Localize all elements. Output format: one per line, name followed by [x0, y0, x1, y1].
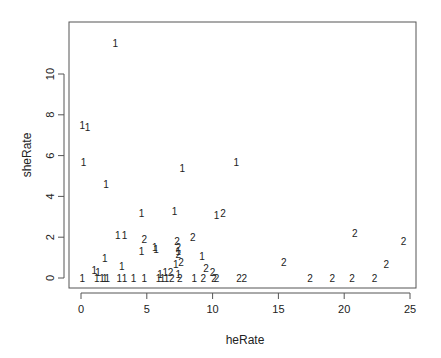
x-tick-label: 15 — [272, 303, 284, 315]
y-tick-label: 10 — [44, 68, 56, 80]
x-axis-label: heRate — [226, 333, 265, 347]
data-point-label: 2 — [214, 273, 220, 284]
data-point-label: 2 — [201, 273, 207, 284]
data-point-label: 1 — [102, 253, 108, 264]
data-point-label: 1 — [180, 163, 186, 174]
y-tick-label: 6 — [44, 153, 56, 159]
data-point-label: 2 — [190, 232, 196, 243]
data-point-label: 1 — [115, 230, 121, 241]
data-point-label: 2 — [372, 273, 378, 284]
data-point-label: 1 — [234, 157, 240, 168]
data-point-label: 2 — [141, 234, 147, 245]
data-point-label: 1 — [122, 230, 128, 241]
data-point-label: 1 — [119, 261, 125, 272]
data-point-label: 2 — [178, 257, 184, 268]
data-point-label: 1 — [85, 122, 91, 133]
data-point-label: 2 — [401, 236, 407, 247]
scatter-plot: 0510152025 0246810 111111111111111111111… — [0, 0, 441, 358]
data-point-label: 2 — [330, 273, 336, 284]
x-tick-label: 20 — [338, 303, 350, 315]
data-point-label: 1 — [191, 273, 197, 284]
y-tick-label: 8 — [44, 112, 56, 118]
data-point-label: 1 — [122, 273, 128, 284]
y-axis-label: sheRate — [20, 132, 34, 177]
data-point-label: 1 — [139, 246, 145, 257]
data-point-label: 2 — [220, 208, 226, 219]
data-point-label: 1 — [131, 273, 137, 284]
data-point-label: 2 — [281, 257, 287, 268]
data-point-label: 2 — [169, 273, 175, 284]
data-point-label: 1 — [80, 273, 86, 284]
y-tick-label: 2 — [44, 234, 56, 240]
x-tick-label: 0 — [78, 303, 84, 315]
data-point-label: 1 — [81, 157, 87, 168]
data-point-label: 1 — [139, 208, 145, 219]
data-point-label: 1 — [199, 251, 205, 262]
data-point-label: 1 — [214, 210, 220, 221]
x-tick-label: 25 — [404, 303, 416, 315]
data-point-label: 2 — [307, 273, 313, 284]
y-axis: 0246810 — [44, 68, 64, 281]
plot-frame — [69, 22, 416, 288]
data-point-label: 2 — [384, 259, 390, 270]
data-point-label: 1 — [112, 38, 118, 49]
data-point-label: 2 — [177, 273, 183, 284]
data-point-label: 2 — [241, 273, 247, 284]
x-tick-label: 5 — [144, 303, 150, 315]
data-point-label: 1 — [172, 206, 178, 217]
data-point-label: 1 — [103, 179, 109, 190]
data-points: 1111111111111111111111111111111111111122… — [80, 38, 407, 284]
y-tick-label: 0 — [44, 275, 56, 281]
x-tick-label: 10 — [206, 303, 218, 315]
data-point-label: 2 — [352, 228, 358, 239]
data-point-label: 2 — [174, 236, 180, 247]
data-point-label: 1 — [141, 273, 147, 284]
data-point-label: 1 — [153, 244, 159, 255]
data-point-label: 1 — [105, 273, 111, 284]
y-tick-label: 4 — [44, 193, 56, 199]
x-axis: 0510152025 — [78, 293, 416, 315]
data-point-label: 2 — [349, 273, 355, 284]
